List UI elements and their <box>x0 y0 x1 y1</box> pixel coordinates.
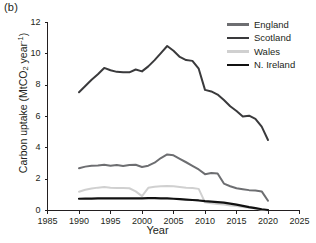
series-line-england <box>79 154 268 200</box>
legend-item-scotland[interactable]: Scotland <box>227 32 291 45</box>
y-tick-label: 8 <box>11 79 41 89</box>
series-line-n-ireland <box>79 198 268 210</box>
x-tick-label: 1990 <box>62 216 96 226</box>
y-tick-label: 0 <box>11 205 41 215</box>
y-axis-title: Carbon uptake (MtCO2 year-1) <box>16 18 30 188</box>
x-tick-label: 2025 <box>283 216 316 226</box>
x-tick-label: 2010 <box>188 216 222 226</box>
y-tick-label: 2 <box>11 173 41 183</box>
legend-swatch-icon <box>227 23 249 26</box>
x-tick-label: 2000 <box>125 216 159 226</box>
legend-item-n-ireland[interactable]: N. Ireland <box>227 59 295 72</box>
legend-label: England <box>254 20 289 30</box>
legend-swatch-icon <box>227 50 249 53</box>
y-tick-label: 4 <box>11 142 41 152</box>
legend-item-wales[interactable]: Wales <box>227 45 280 58</box>
y-tick-label: 6 <box>11 111 41 121</box>
x-axis-title: Year <box>0 224 315 236</box>
x-tick-label: 2015 <box>220 216 254 226</box>
y-tick-label: 12 <box>11 17 41 27</box>
legend-swatch-icon <box>227 37 249 40</box>
legend-label: Wales <box>254 47 280 57</box>
legend-label: N. Ireland <box>254 60 295 70</box>
legend-swatch-icon <box>227 64 249 67</box>
y-tick-label: 10 <box>11 48 41 58</box>
panel-label: (b) <box>4 2 18 13</box>
x-tick-label: 1985 <box>31 216 65 226</box>
x-tick-label: 2020 <box>251 216 285 226</box>
legend-item-england[interactable]: England <box>227 18 289 31</box>
x-tick-label: 2005 <box>157 216 191 226</box>
legend-label: Scotland <box>254 33 291 43</box>
x-tick-label: 1995 <box>94 216 128 226</box>
chart-figure: (b) Carbon uptake (MtCO2 year-1) Year 02… <box>0 0 315 243</box>
